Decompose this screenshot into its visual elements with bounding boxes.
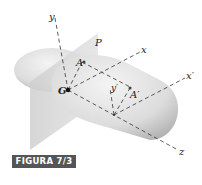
body-main (52, 55, 179, 140)
figure: y P x A G y′ A′ x′ z FIGURA 7/3 (0, 0, 202, 185)
label-A: A (76, 58, 83, 68)
label-x-prime: x′ (186, 71, 194, 81)
figure-caption: FIGURA 7/3 (12, 155, 76, 168)
label-y-prime: y′ (111, 84, 118, 93)
label-y: y (49, 12, 55, 22)
label-A-prime: A′ (130, 90, 140, 100)
label-x: x (141, 45, 147, 55)
label-P: P (95, 38, 102, 48)
label-G: G (58, 86, 67, 96)
label-z: z (179, 147, 184, 157)
